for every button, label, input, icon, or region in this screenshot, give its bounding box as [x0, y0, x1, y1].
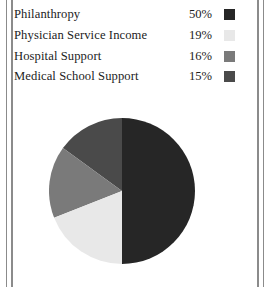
- legend-row: Philanthropy 50%: [14, 4, 228, 25]
- legend-color-swatch: [224, 9, 235, 20]
- pie-slice: [122, 118, 195, 264]
- left-border-rule-inner: [11, 0, 13, 287]
- legend-color-swatch: [224, 51, 235, 62]
- legend-row: Hospital Support 16%: [14, 46, 228, 67]
- legend-percent: 16%: [174, 46, 212, 67]
- legend-percent: 19%: [174, 25, 212, 46]
- right-border-rule-outer: [263, 0, 264, 287]
- legend-percent: 15%: [174, 66, 212, 87]
- pie-legend: Philanthropy 50% Physician Service Incom…: [14, 4, 228, 87]
- left-border-rule-outer: [6, 0, 7, 287]
- legend-row: Medical School Support 15%: [14, 66, 228, 87]
- legend-color-swatch: [224, 71, 235, 82]
- legend-label: Medical School Support: [14, 66, 139, 87]
- right-border-rule-inner: [257, 0, 259, 287]
- legend-label: Hospital Support: [14, 46, 101, 67]
- pie-chart: [49, 118, 195, 264]
- chart-page: Philanthropy 50% Physician Service Incom…: [0, 0, 274, 287]
- legend-percent: 50%: [174, 4, 212, 25]
- legend-row: Physician Service Income 19%: [14, 25, 228, 46]
- legend-label: Philanthropy: [14, 4, 80, 25]
- pie-chart-svg: [49, 118, 195, 264]
- pie-slices: [49, 118, 195, 264]
- legend-color-swatch: [224, 30, 235, 41]
- legend-label: Physician Service Income: [14, 25, 147, 46]
